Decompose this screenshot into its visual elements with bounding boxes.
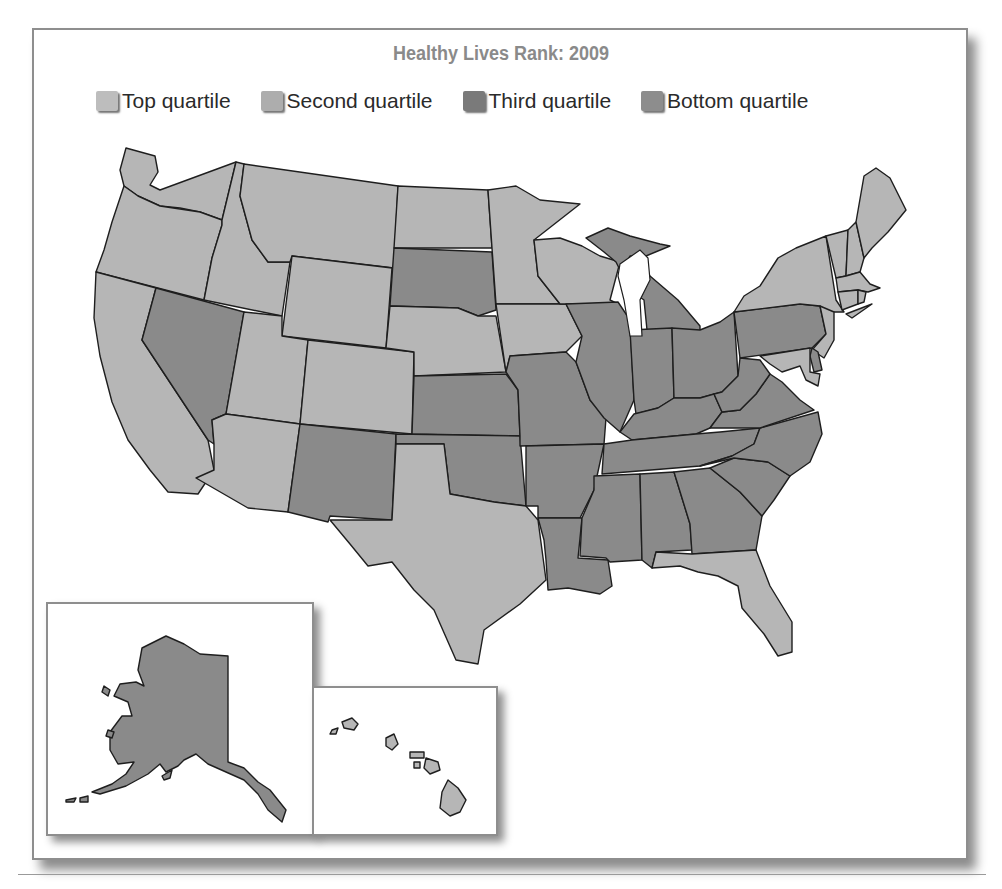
state-kansas [412,374,520,436]
state-north-dakota [394,186,492,248]
state-alaska [92,636,286,822]
state-florida [652,550,792,656]
state-indiana [630,328,674,414]
state-maine [856,168,906,258]
alaska-island [106,730,114,738]
state-new-mexico [288,424,396,522]
alaska-inset [46,602,314,836]
state-connecticut [838,290,858,310]
hawaii-molokai [410,752,424,758]
hawaii-lanai [414,762,420,768]
state-new-york [734,236,844,312]
hawaii-maui [424,758,440,774]
alaska-island [66,798,76,802]
hawaii-niihau [330,728,338,734]
hawaii-big-island [440,780,466,816]
state-colorado [300,340,414,434]
hawaii-map [314,688,496,834]
state-wyoming [282,256,392,348]
hawaii-oahu [386,734,398,750]
alaska-map [48,604,312,834]
state-rhode-island [858,290,866,304]
state-montana [240,164,398,268]
hawaii-kauai [342,718,358,730]
alaska-island [80,796,88,802]
hawaii-inset [312,686,498,836]
alaska-island [102,686,110,696]
